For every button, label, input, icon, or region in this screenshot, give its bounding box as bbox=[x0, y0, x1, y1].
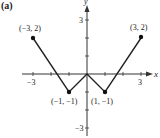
y-tick-label-3: 3 bbox=[79, 16, 83, 25]
x-axis-label: x bbox=[153, 69, 158, 79]
y-tick-label-neg3: −3 bbox=[75, 124, 84, 133]
x-axis: x −3 3 bbox=[22, 69, 158, 87]
y-axis: y 3 −3 bbox=[75, 0, 90, 136]
point-1-neg1 bbox=[103, 90, 107, 94]
x-tick-label-3: 3 bbox=[138, 78, 142, 87]
y-axis-arrow-icon bbox=[85, 5, 90, 12]
x-axis-arrow-icon bbox=[146, 72, 153, 77]
point-label-3-2: (3, 2) bbox=[130, 23, 148, 32]
point-label-neg3-2: (−3, 2) bbox=[19, 24, 41, 33]
point-neg3-2 bbox=[31, 36, 35, 40]
figure-label: (a) bbox=[1, 0, 13, 12]
point-label-1-neg1: (1, −1) bbox=[91, 97, 113, 106]
x-tick-label-neg3: −3 bbox=[27, 78, 36, 87]
y-axis-label: y bbox=[83, 0, 88, 6]
piecewise-function-graph: (a) x −3 3 y 3 −3 (−3, 2) (−1, bbox=[0, 0, 160, 138]
point-3-2 bbox=[139, 35, 143, 39]
point-label-neg1-neg1: (−1, −1) bbox=[51, 97, 78, 106]
point-neg1-neg1 bbox=[67, 90, 71, 94]
